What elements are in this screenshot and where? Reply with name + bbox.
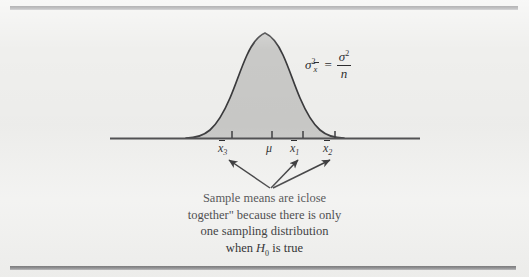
caption-line-4: when H0 is true xyxy=(0,240,529,262)
bottom-rule xyxy=(10,266,516,270)
null-hypothesis-symbol: H xyxy=(256,241,265,255)
arrow-to-x-bar-2 xyxy=(273,160,330,188)
variance-formula: σ2x= σ2 n xyxy=(305,51,351,82)
arrow-to-x-bar-3 xyxy=(229,160,270,188)
axis-label-x-bar-1: x1 xyxy=(290,141,299,157)
arrow-to-x-bar-1 xyxy=(271,160,298,188)
x-bar-glyph: x xyxy=(218,141,223,156)
fraction-numerator: σ2 xyxy=(337,50,351,64)
figure-caption: Sample means are iclose together" becaus… xyxy=(0,190,529,262)
formula-equals: = xyxy=(324,57,331,72)
caption-line-2: together" because there is only xyxy=(0,207,529,224)
caption-line-1: Sample means are iclose xyxy=(0,190,529,207)
caption-line-3: one sampling distribution xyxy=(0,223,529,240)
overbar xyxy=(314,62,319,63)
x-bar-glyph: x xyxy=(323,141,328,156)
formula-fraction: σ2 n xyxy=(337,50,351,81)
overbar xyxy=(324,140,330,141)
x-bar-glyph: x xyxy=(290,141,295,156)
axis-label-mu: μ xyxy=(266,141,272,156)
fraction-denominator: n xyxy=(337,67,351,81)
axis-label-x-bar-2: x2 xyxy=(323,141,332,157)
x-bar-subscript: x xyxy=(314,64,318,74)
axis-label-x-bar-3: x3 xyxy=(218,141,227,157)
normal-curve-fill xyxy=(186,33,344,138)
overbar xyxy=(291,140,297,141)
overbar xyxy=(219,140,225,141)
formula-sigma-sub-xbar: σ2x xyxy=(305,57,315,73)
figure-root: σ2x= σ2 n x3 μ x1 x2 Sample means are ic… xyxy=(0,0,529,277)
